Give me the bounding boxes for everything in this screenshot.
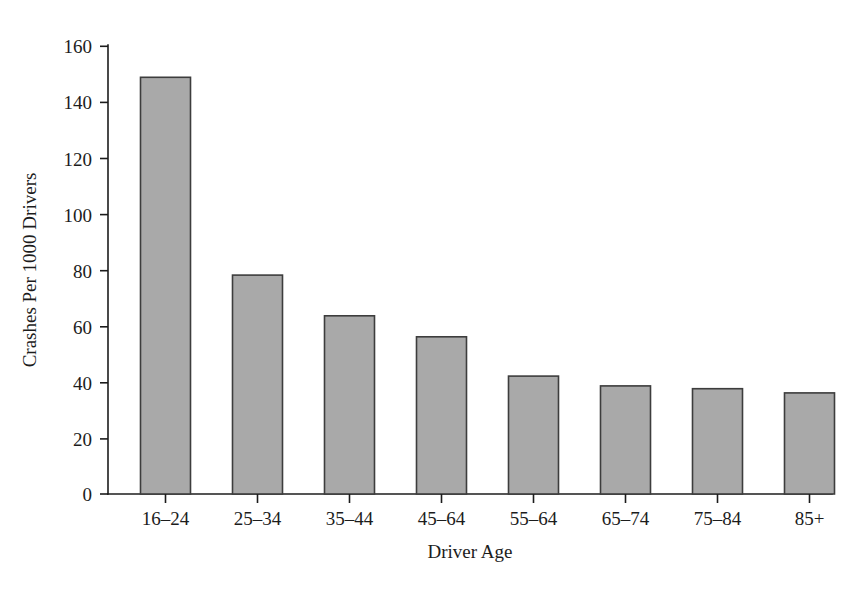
y-tick-label-140: 140 [64, 92, 93, 113]
bar-55-64[interactable] [509, 376, 559, 494]
bar-75-84[interactable] [693, 389, 743, 494]
x-tick-label-75-84: 75–84 [694, 508, 742, 529]
bar-45-64[interactable] [417, 337, 467, 494]
y-tick-label-160: 160 [64, 36, 93, 57]
x-tick-label-65-74: 65–74 [602, 508, 650, 529]
x-tick-label-35-44: 35–44 [326, 508, 374, 529]
y-tick-label-120: 120 [64, 149, 93, 170]
y-tick-label-100: 100 [64, 205, 93, 226]
bar-35-44[interactable] [325, 316, 375, 494]
bar-85-plus[interactable] [785, 393, 835, 494]
y-tick-label-20: 20 [73, 429, 92, 450]
chart-background [0, 0, 866, 591]
x-tick-label-25-34: 25–34 [234, 508, 282, 529]
bar-16-24[interactable] [141, 77, 191, 494]
y-tick-label-60: 60 [73, 317, 92, 338]
chart-canvas: 0 20 40 60 80 100 120 140 160 [0, 0, 866, 591]
x-axis-title: Driver Age [428, 541, 513, 562]
y-tick-label-80: 80 [73, 261, 92, 282]
x-tick-label-55-64: 55–64 [510, 508, 558, 529]
x-tick-label-85-plus: 85+ [795, 508, 825, 529]
y-tick-label-0: 0 [83, 484, 93, 505]
y-tick-label-40: 40 [73, 373, 92, 394]
bar-chart-figure: 0 20 40 60 80 100 120 140 160 [0, 0, 866, 591]
x-tick-label-16-24: 16–24 [142, 508, 190, 529]
bar-65-74[interactable] [601, 386, 651, 494]
bar-25-34[interactable] [233, 275, 283, 494]
x-tick-label-45-64: 45–64 [418, 508, 466, 529]
y-axis-title: Crashes Per 1000 Drivers [19, 173, 40, 368]
